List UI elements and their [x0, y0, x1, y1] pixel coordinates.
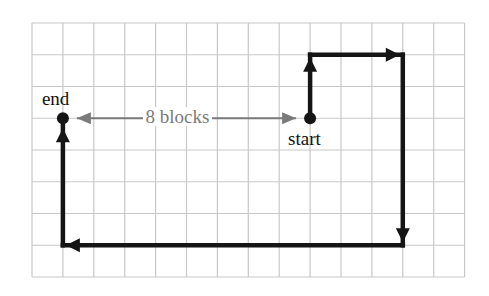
distance-label: 8 blocks: [143, 107, 213, 126]
grid-lines: [32, 23, 465, 277]
grid-diagram: [0, 0, 489, 296]
start-label: start: [288, 129, 321, 148]
end-label: end: [42, 89, 69, 108]
